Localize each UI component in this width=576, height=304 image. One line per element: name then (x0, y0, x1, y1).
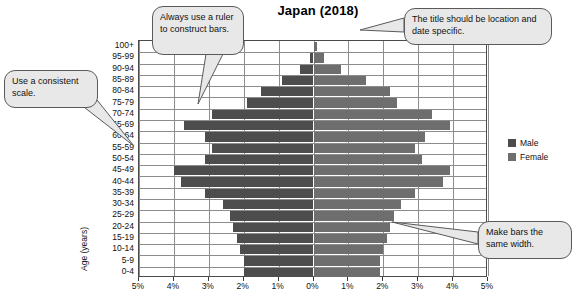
y-axis-title-wrap: Age (years) (52, 120, 92, 180)
bar-row (139, 199, 486, 210)
bar-female (314, 256, 380, 265)
bar-female (314, 223, 391, 232)
x-axis-tick-label: 0% (298, 281, 328, 291)
bar-row (139, 255, 486, 266)
plot-area (138, 40, 487, 277)
legend-swatch-female-icon (508, 153, 516, 161)
x-axis-tick-label: 5% (123, 281, 153, 291)
bar-female (314, 144, 415, 153)
bar-male (223, 200, 314, 209)
bar-male (237, 234, 314, 243)
legend: Male Female (508, 138, 548, 166)
bar-female (314, 98, 398, 107)
y-axis-tick-label: 45-49 (100, 165, 134, 174)
bar-row (139, 109, 486, 120)
x-axis-tick-label: 4% (158, 281, 188, 291)
y-axis-tick-label: 70-74 (100, 109, 134, 118)
bar-female (314, 200, 401, 209)
y-axis-tick-label: 50-54 (100, 154, 134, 163)
bar-female (314, 234, 387, 243)
legend-label-male: Male (520, 138, 538, 148)
legend-label-female: Female (520, 152, 548, 162)
y-axis-tick-label: 35-39 (100, 188, 134, 197)
bar-male (244, 256, 314, 265)
bar-row (139, 165, 486, 176)
bar-female (314, 177, 443, 186)
bar-row (139, 222, 486, 233)
y-axis-tick-label: 30-34 (100, 199, 134, 208)
callout-use-consistent-scale: Use a consistent scale. (4, 70, 98, 108)
bar-female (314, 189, 415, 198)
y-axis-tick-label: 85-89 (100, 75, 134, 84)
bar-row (139, 97, 486, 108)
bar-female (314, 121, 450, 130)
bar-row (139, 64, 486, 75)
y-axis-tick-label: 40-44 (100, 177, 134, 186)
bar-male (282, 76, 313, 85)
bar-row (139, 210, 486, 221)
bar-female (314, 53, 324, 62)
y-axis-tick-label: 0-4 (100, 267, 134, 276)
bar-row (139, 188, 486, 199)
legend-item-female: Female (508, 152, 548, 162)
bar-male (233, 223, 313, 232)
bar-row (139, 75, 486, 86)
legend-swatch-male-icon (508, 139, 516, 147)
bar-male (300, 65, 314, 74)
bar-male (230, 211, 314, 220)
x-axis-tick-label: 1% (263, 281, 293, 291)
bar-row (139, 154, 486, 165)
bar-row (139, 131, 486, 142)
page-title: Japan (2018) (248, 3, 388, 18)
bar-male (184, 121, 313, 130)
bar-male (205, 132, 313, 141)
y-axis-tick-label: 95-99 (100, 52, 134, 61)
bar-female (314, 155, 422, 164)
bar-female (314, 245, 384, 254)
bar-male (212, 110, 313, 119)
y-axis-tick-label: 20-24 (100, 222, 134, 231)
y-axis-tick-label: 75-79 (100, 98, 134, 107)
y-axis-tick-label: 55-59 (100, 143, 134, 152)
bar-row (139, 244, 486, 255)
bar-female (314, 87, 391, 96)
bar-female (314, 132, 426, 141)
callout-always-use-a-ruler: Always use a ruler to construct bars. (152, 6, 244, 55)
x-axis-tick-label: 4% (437, 281, 467, 291)
bar-row (139, 120, 486, 131)
callout-title-location-date: The title should be location and date sp… (404, 8, 552, 45)
y-axis-tick-label: 65-69 (100, 120, 134, 129)
y-axis-tick-label: 60-64 (100, 131, 134, 140)
y-axis-title: Age (years) (79, 204, 89, 294)
y-axis-tick-label: 10-14 (100, 244, 134, 253)
bar-row (139, 176, 486, 187)
bar-female (314, 110, 433, 119)
y-axis-tick-label: 15-19 (100, 233, 134, 242)
x-axis-tick-label: 1% (332, 281, 362, 291)
population-pyramid-figure: Japan (2018) Age (years) 100+95-9990-948… (0, 0, 576, 304)
y-axis-tick-label: 100+ (100, 41, 134, 50)
bar-female (314, 268, 380, 277)
legend-item-male: Male (508, 138, 548, 148)
bar-female (314, 42, 317, 51)
bar-male (240, 245, 313, 254)
y-axis-labels: 100+95-9990-9485-8980-8475-7970-7465-696… (96, 40, 134, 277)
y-axis-tick-label: 80-84 (100, 86, 134, 95)
x-axis-tick-label: 3% (402, 281, 432, 291)
bar-male (261, 87, 313, 96)
bar-female (314, 166, 450, 175)
bar-female (314, 65, 342, 74)
bar-male (205, 155, 313, 164)
bar-male (212, 144, 313, 153)
bar-male (244, 268, 314, 277)
bar-row (139, 86, 486, 97)
y-axis-tick-label: 90-94 (100, 64, 134, 73)
bar-female (314, 76, 366, 85)
x-axis-tick-label: 3% (193, 281, 223, 291)
bar-series-container (139, 41, 486, 276)
bar-row (139, 143, 486, 154)
x-axis-labels: 5%4%3%2%1%0%1%2%3%4%5% (138, 281, 487, 295)
y-axis-tick-label: 5-9 (100, 256, 134, 265)
bar-male (205, 189, 313, 198)
x-axis-tick-label: 2% (228, 281, 258, 291)
